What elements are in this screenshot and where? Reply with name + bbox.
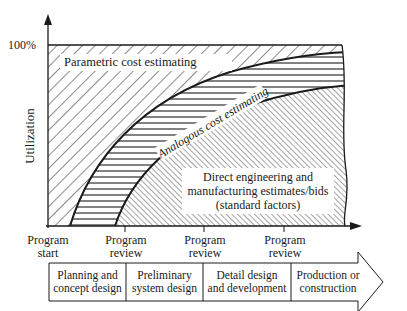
phase-line2: and development	[203, 282, 291, 295]
direct-label-line2: manufacturing estimates/bids	[182, 184, 334, 198]
phase-line2: concept design	[49, 282, 126, 295]
milestone-line2: review	[177, 247, 233, 260]
milestone-review-2: Program review	[177, 234, 233, 260]
phase-line1: Detail design	[203, 269, 291, 282]
y-axis-arrow-icon	[44, 14, 52, 25]
x-axis-arrow-icon	[350, 222, 362, 230]
phase-production: Production or construction	[291, 269, 365, 295]
utilization-diagram	[0, 0, 407, 311]
phase-line1: Production or	[291, 269, 365, 282]
phase-planning: Planning and concept design	[49, 269, 126, 295]
milestone-line2: start	[20, 247, 76, 260]
milestone-line2: review	[257, 247, 313, 260]
phase-line2: system design	[126, 282, 203, 295]
milestone-program-start: Program start	[20, 234, 76, 260]
direct-label-line1: Direct engineering and	[182, 170, 334, 184]
phase-line1: Planning and	[49, 269, 126, 282]
parametric-label: Parametric cost estimating	[64, 56, 197, 69]
y-axis-title: Utilization	[22, 106, 38, 166]
phase-preliminary: Preliminary system design	[126, 269, 203, 295]
y-axis-100-label: 100%	[8, 39, 36, 52]
phase-line2: construction	[291, 282, 365, 295]
milestone-line2: review	[98, 247, 154, 260]
direct-label: Direct engineering and manufacturing est…	[182, 170, 334, 212]
milestone-review-3: Program review	[257, 234, 313, 260]
phase-line1: Preliminary	[126, 269, 203, 282]
milestone-review-1: Program review	[98, 234, 154, 260]
direct-label-line3: (standard factors)	[182, 198, 334, 212]
phase-detail: Detail design and development	[203, 269, 291, 295]
